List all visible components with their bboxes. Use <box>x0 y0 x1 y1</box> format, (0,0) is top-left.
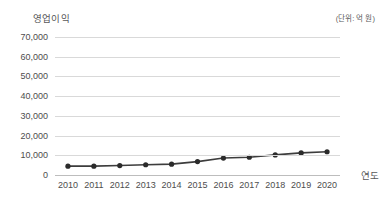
gridline <box>55 116 340 117</box>
plot-area <box>55 37 340 175</box>
x-axis-tick-label: 2011 <box>84 180 103 190</box>
data-point-marker <box>195 159 200 164</box>
x-axis-tick-label: 2016 <box>213 180 233 190</box>
x-axis-tick-label: 2014 <box>162 180 182 190</box>
y-axis-tick-label: 10,000 <box>0 150 48 160</box>
x-axis-tick-label: 2019 <box>291 180 311 190</box>
y-axis-tick-label: 50,000 <box>0 71 48 81</box>
x-axis-tick-label: 2018 <box>265 180 285 190</box>
y-axis-tick-label: 40,000 <box>0 91 48 101</box>
unit-note: (단위: 억 원) <box>336 12 375 23</box>
gridline <box>55 57 340 58</box>
y-axis-tick-label: 60,000 <box>0 52 48 62</box>
data-point-marker <box>324 149 329 154</box>
y-axis-title: 영업이익 <box>33 11 70 25</box>
x-axis-tick-label: 2012 <box>110 180 130 190</box>
gridline <box>55 175 340 176</box>
data-point-marker <box>169 162 174 167</box>
x-axis-title: 연도 <box>361 168 379 182</box>
gridline <box>55 96 340 97</box>
y-axis-tick-label: 70,000 <box>0 32 48 42</box>
y-axis-tick-label: 30,000 <box>0 111 48 121</box>
data-point-marker <box>65 164 70 169</box>
operating-profit-line-chart: 영업이익 (단위: 억 원) 연도 70,00060,00050,00040,0… <box>0 0 387 203</box>
data-point-marker <box>91 164 96 169</box>
x-axis-tick-label: 2020 <box>317 180 337 190</box>
y-axis-tick-label: 0 <box>0 170 48 180</box>
gridline <box>55 76 340 77</box>
x-axis-tick-label: 2010 <box>58 180 78 190</box>
gridline <box>55 155 340 156</box>
gridline <box>55 136 340 137</box>
data-point-marker <box>143 162 148 167</box>
x-axis-tick-label: 2013 <box>136 180 156 190</box>
y-axis-tick-label: 20,000 <box>0 131 48 141</box>
x-axis-tick-label: 2017 <box>239 180 259 190</box>
x-axis-tick-label: 2015 <box>187 180 207 190</box>
data-point-marker <box>117 163 122 168</box>
gridline <box>55 37 340 38</box>
